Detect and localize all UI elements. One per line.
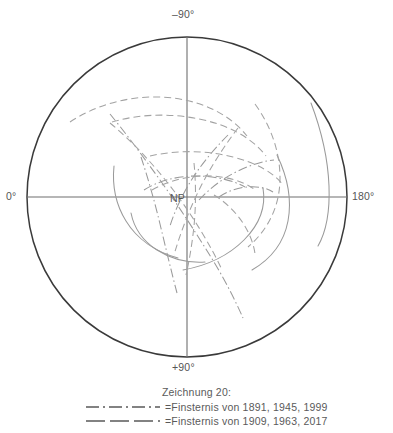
dashdot-curve-1891 bbox=[110, 114, 243, 318]
solid-curve-middle bbox=[252, 155, 290, 270]
dashed-curve-1963 bbox=[248, 104, 280, 247]
eclipse-polar-figure bbox=[0, 0, 393, 433]
caption-title: Zeichnung 20: bbox=[0, 386, 393, 398]
dashdot-curve-arc-c bbox=[219, 187, 273, 197]
north-pole-label: NP bbox=[170, 192, 185, 204]
legend-row-dashed: = Finsternis von 1909, 1963, 2017 bbox=[0, 414, 393, 428]
dashdot-curve-1945 bbox=[141, 157, 177, 293]
solid-curve-left bbox=[114, 166, 179, 258]
axis-label-bottom: +90° bbox=[172, 361, 195, 373]
legend-label-dashed: Finsternis von 1909, 1963, 2017 bbox=[171, 415, 327, 427]
dashed-curve-arc-f bbox=[214, 195, 255, 254]
axis-label-top: –90° bbox=[172, 8, 195, 20]
axis-label-left: 0° bbox=[6, 190, 16, 202]
dashed-curve-1909 bbox=[70, 97, 247, 136]
legend-row-dashdot: = Finsternis von 1891, 1945, 1999 bbox=[0, 400, 393, 414]
dashed-eclipse-paths bbox=[70, 97, 283, 275]
dashdot-curve-arc-b bbox=[170, 135, 228, 226]
axis-label-right: 180° bbox=[352, 190, 375, 202]
figure-caption: Zeichnung 20: = Finsternis von 1891, 194… bbox=[0, 386, 393, 428]
polar-projection-svg bbox=[0, 0, 393, 433]
legend-label-dashdot: Finsternis von 1891, 1945, 1999 bbox=[171, 401, 327, 413]
dashed-curve-arc-c bbox=[150, 152, 283, 185]
dashed-curve-arc-a bbox=[112, 115, 266, 156]
solid-central-lines bbox=[114, 103, 330, 270]
legend-swatch-dashdot-icon bbox=[84, 402, 162, 412]
dashdot-curve-1999 bbox=[199, 160, 274, 200]
solid-curve-outer bbox=[311, 103, 329, 246]
legend-swatch-dashed-icon bbox=[84, 416, 162, 426]
